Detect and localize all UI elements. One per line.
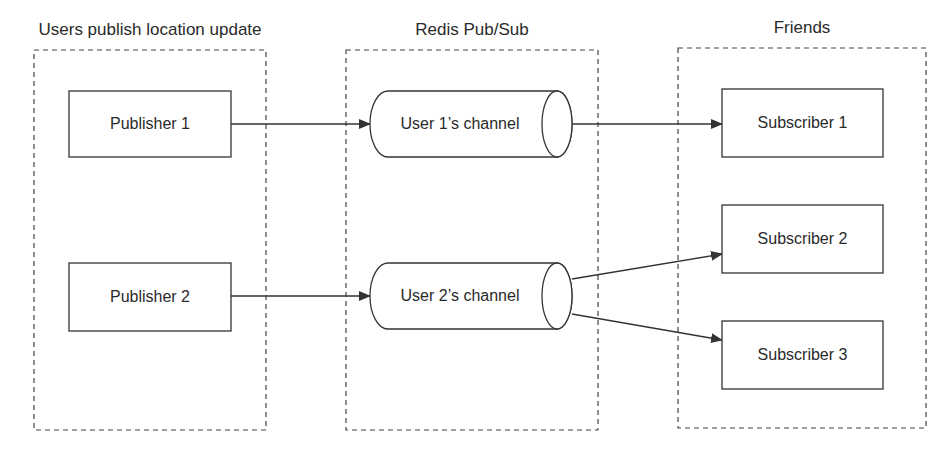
cylinder-cap xyxy=(542,263,572,329)
node-label: User 2’s channel xyxy=(401,287,520,304)
node-ch2: User 2’s channel xyxy=(370,263,572,329)
group-redis: Redis Pub/Sub xyxy=(346,20,598,430)
arrow-ch2-to-sub3 xyxy=(572,314,722,340)
node-sub2: Subscriber 2 xyxy=(722,205,883,273)
node-label: Subscriber 3 xyxy=(758,346,848,363)
node-label: Publisher 1 xyxy=(110,115,190,132)
node-label: Publisher 2 xyxy=(110,288,190,305)
node-pub1: Publisher 1 xyxy=(69,91,231,157)
node-label: Subscriber 2 xyxy=(758,230,848,247)
node-pub2: Publisher 2 xyxy=(69,263,231,331)
arrow-ch2-to-sub2 xyxy=(572,254,722,279)
node-ch1: User 1’s channel xyxy=(370,91,572,157)
pubsub-diagram: Users publish location updateRedis Pub/S… xyxy=(0,0,952,458)
cylinder-cap xyxy=(542,91,572,157)
node-sub3: Subscriber 3 xyxy=(722,321,883,389)
group-title: Redis Pub/Sub xyxy=(415,20,528,39)
node-label: Subscriber 1 xyxy=(758,114,848,131)
group-title: Friends xyxy=(774,18,831,37)
group-title: Users publish location update xyxy=(38,20,261,39)
node-label: User 1’s channel xyxy=(401,115,520,132)
node-sub1: Subscriber 1 xyxy=(722,89,883,157)
group-publishers: Users publish location update xyxy=(34,20,266,430)
